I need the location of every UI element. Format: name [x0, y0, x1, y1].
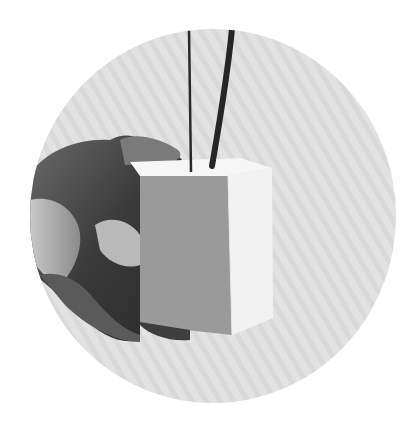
cables [189, 29, 232, 172]
white-box [130, 158, 273, 335]
thin-cable [189, 29, 191, 172]
thick-cable [212, 29, 232, 166]
circular-photo [30, 29, 396, 403]
photo-illustration [30, 29, 396, 403]
